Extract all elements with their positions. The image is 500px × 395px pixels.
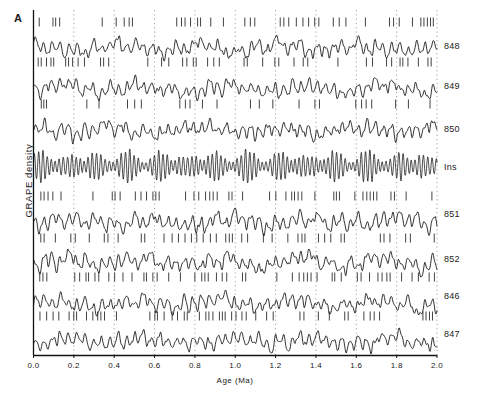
grape-density-figure: A GRAPE density Age (Ma) 0.00.20.40.60.8… — [0, 0, 500, 395]
row-label-848: 848 — [444, 41, 460, 51]
x-tick-label: 0.6 — [149, 361, 161, 370]
row-label-846: 846 — [444, 291, 460, 301]
x-tick-label: 0.2 — [68, 361, 80, 370]
x-tick-label: 1.2 — [270, 361, 282, 370]
trace-848 — [34, 35, 438, 61]
x-tick-label: 0.0 — [27, 361, 39, 370]
x-tick-label: 1.8 — [391, 361, 403, 370]
plot-canvas — [0, 0, 500, 395]
x-tick-label: 0.4 — [108, 361, 120, 370]
x-tick-label: 1.6 — [350, 361, 362, 370]
gridline-group — [74, 10, 437, 355]
row-label-851: 851 — [444, 209, 460, 219]
x-tick-label: 0.8 — [189, 361, 201, 370]
row-label-850: 850 — [444, 124, 460, 134]
x-tick-label: 1.4 — [310, 361, 322, 370]
row-label-847: 847 — [444, 329, 460, 339]
row-label-ins: Ins — [444, 162, 457, 172]
x-tick-label: 2.0 — [431, 361, 443, 370]
x-tick-label: 1.0 — [229, 361, 241, 370]
row-label-849: 849 — [444, 81, 460, 91]
row-label-852: 852 — [444, 254, 460, 264]
